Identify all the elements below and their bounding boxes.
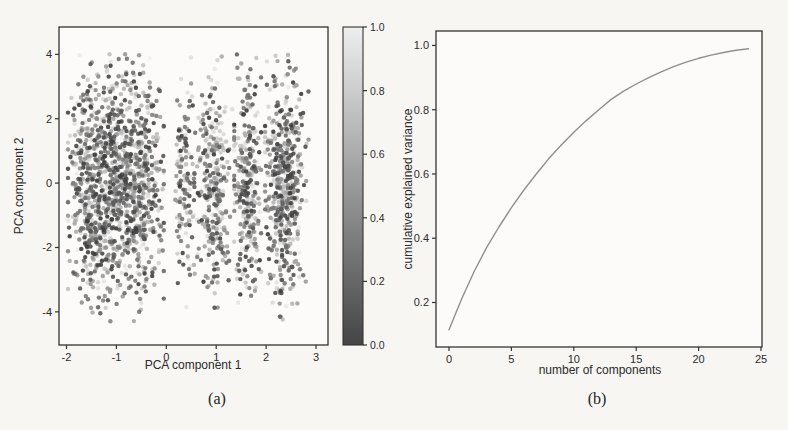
plot-b-y-tick-label: 0.4 — [414, 232, 429, 244]
plot-a-y-ticks: -4-2024 — [42, 48, 59, 317]
subfigure-a-caption: (a) — [208, 390, 226, 408]
plot-a-y-tick-label: -2 — [42, 241, 52, 253]
plot-b-x-tick-label: 0 — [446, 353, 452, 365]
plot-a-x-tick-label: -1 — [112, 351, 122, 363]
colorbar-tick-label: 0.0 — [370, 339, 385, 351]
plot-b-x-tick-label: 5 — [508, 353, 514, 365]
plot-b-x-tick-label: 20 — [692, 353, 704, 365]
plot-b-area — [436, 31, 762, 347]
plot-a-xaxis-label: PCA component 1 — [145, 358, 242, 372]
colorbar-tick-label: 1.0 — [370, 21, 385, 33]
plot-b-y-tick-label: 0.6 — [414, 168, 429, 180]
plot-a-y-tick-label: -4 — [42, 306, 52, 318]
plot-b-y-tick-label: 0.8 — [414, 104, 429, 116]
plot-b-xaxis-label: number of components — [539, 363, 662, 377]
plot-b-yaxis-label: cumulative explained variance — [401, 109, 415, 270]
plot-a-y-tick-label: 0 — [46, 177, 52, 189]
colorbar-tick-label: 0.4 — [370, 212, 385, 224]
plot-b-y-tick-label: 1.0 — [414, 39, 429, 51]
plot-a-y-tick-label: 4 — [46, 48, 52, 60]
plot-a-yaxis-label: PCA component 2 — [12, 138, 26, 235]
colorbar — [343, 27, 363, 345]
colorbar-tick-label: 0.8 — [370, 85, 385, 97]
plot-a-x-tick-label: 3 — [313, 351, 319, 363]
subfigure-b-caption: (b) — [588, 390, 607, 408]
plot-b-y-ticks: 0.20.40.60.81.0 — [414, 39, 436, 308]
plot-a-x-tick-label: 2 — [263, 351, 269, 363]
colorbar-tick-label: 0.6 — [370, 148, 385, 160]
figure-page: -2-10123-4-202405101520250.20.40.60.81.0… — [0, 0, 788, 430]
colorbar-tick-label: 0.2 — [370, 275, 385, 287]
plot-a-x-tick-label: -2 — [62, 351, 72, 363]
colorbar-ticks: 0.00.20.40.60.81.0 — [363, 21, 385, 351]
plot-a-y-tick-label: 2 — [46, 113, 52, 125]
plot-b-x-tick-label: 25 — [755, 353, 767, 365]
plot-b-y-tick-label: 0.2 — [414, 296, 429, 308]
pca-figure-canvas: -2-10123-4-202405101520250.20.40.60.81.0… — [0, 0, 788, 430]
